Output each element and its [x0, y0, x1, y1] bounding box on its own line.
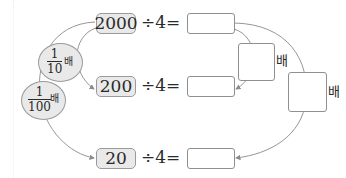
answer-input-2[interactable]	[187, 76, 235, 97]
numerator: 1	[51, 48, 59, 60]
multiplier-input-1[interactable]	[238, 43, 275, 81]
times-unit-label: 배	[328, 84, 340, 99]
value-box-2000: 2000	[96, 13, 136, 34]
divide-by-4-label: ÷4=	[141, 148, 180, 167]
denominator: 100	[28, 101, 51, 113]
value-box-200: 200	[96, 76, 136, 97]
numerator: 1	[36, 86, 44, 98]
answer-input-3[interactable]	[187, 148, 235, 169]
multiplier-input-2[interactable]	[288, 72, 327, 112]
answer-input-1[interactable]	[187, 13, 235, 34]
divide-by-4-label: ÷4=	[141, 13, 180, 32]
value-box-20: 20	[96, 148, 136, 169]
divide-by-4-label: ÷4=	[141, 76, 180, 95]
times-unit-label: 배	[50, 93, 59, 105]
fraction-one-hundredth: 1 100	[28, 86, 51, 113]
fraction-one-tenth: 1 10	[47, 48, 62, 75]
times-unit-label: 배	[276, 53, 288, 68]
denominator: 10	[47, 63, 62, 75]
times-unit-label: 배	[64, 56, 73, 68]
